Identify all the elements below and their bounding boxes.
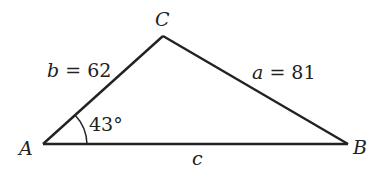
angle-a-arc (75, 115, 87, 144)
side-b-label: b = 62 (47, 59, 111, 81)
side-a-eq: = (269, 61, 291, 83)
side-b-var: b (47, 59, 59, 81)
angle-a-label: 43° (89, 113, 123, 135)
vertex-b-label: B (352, 136, 367, 158)
side-a-line (163, 36, 348, 144)
side-c-label: c (192, 147, 203, 169)
side-a-label: a = 81 (252, 61, 316, 83)
vertex-a-label: A (17, 137, 33, 159)
side-a-value: 81 (291, 61, 315, 83)
vertex-c-label: C (155, 8, 170, 30)
side-b-eq: = (65, 59, 87, 81)
side-a-var: a (252, 61, 263, 83)
triangle-diagram: C A B b = 62 a = 81 c 43° (0, 0, 389, 180)
side-b-value: 62 (87, 59, 111, 81)
